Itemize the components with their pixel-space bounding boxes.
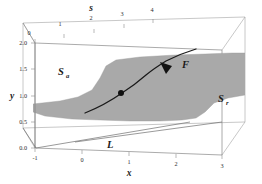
label-Sr-base: S: [218, 93, 224, 104]
base-plane-line-L: [23, 122, 222, 148]
label-Sa-sub: a: [66, 72, 70, 79]
plot-canvas: 0 1 2 3 4 s 2.0 1.5 1.0 0.5 0.0 y -1 0 1…: [0, 0, 262, 184]
s-tick-1: 1: [58, 20, 61, 27]
y-tick-1p5: 1.5: [19, 65, 27, 72]
s-tick-3: 3: [120, 10, 123, 17]
s-tick-2: 2: [89, 14, 92, 21]
y-axis-label: y: [9, 91, 15, 101]
trajectory-marker-dot: [118, 90, 124, 96]
label-Sa: S a: [58, 66, 70, 79]
critical-manifold-surface: [33, 53, 245, 121]
y-tick-2p0: 2.0: [19, 39, 27, 46]
y-tick-0p0: 0.0: [19, 144, 27, 151]
label-F: F: [181, 59, 189, 70]
figure-container: 0 1 2 3 4 s 2.0 1.5 1.0 0.5 0.0 y -1 0 1…: [0, 0, 262, 184]
x-tick-3: 3: [220, 162, 223, 169]
label-Sa-base: S: [58, 66, 64, 77]
y-axis-ticks: [31, 43, 35, 148]
y-tick-0p5: 0.5: [19, 118, 27, 125]
label-Sr-sub: r: [226, 99, 229, 106]
x-tick-1: 1: [127, 158, 130, 165]
x-tick-0: 0: [80, 156, 83, 163]
s-axis-label: s: [88, 3, 93, 13]
x-tick-2: 2: [174, 160, 177, 167]
x-axis-label: x: [126, 168, 132, 178]
y-tick-1p0: 1.0: [19, 92, 27, 99]
label-L: L: [106, 139, 113, 150]
x-tick-m1: -1: [32, 154, 37, 161]
s-tick-0: 0: [27, 29, 30, 36]
s-tick-4: 4: [150, 6, 153, 13]
